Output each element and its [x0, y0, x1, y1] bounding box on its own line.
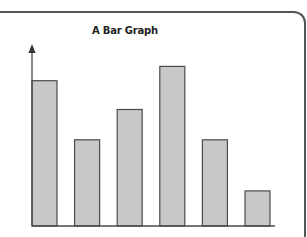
bar-1 [32, 81, 57, 226]
bars-group [32, 66, 270, 226]
bar-4 [160, 66, 185, 226]
bar-3 [117, 110, 142, 227]
y-axis-arrow-icon [29, 44, 36, 53]
bar-2 [75, 140, 100, 226]
bar-5 [202, 140, 227, 226]
bar-6 [245, 191, 270, 226]
bar-chart-plot [0, 0, 307, 237]
